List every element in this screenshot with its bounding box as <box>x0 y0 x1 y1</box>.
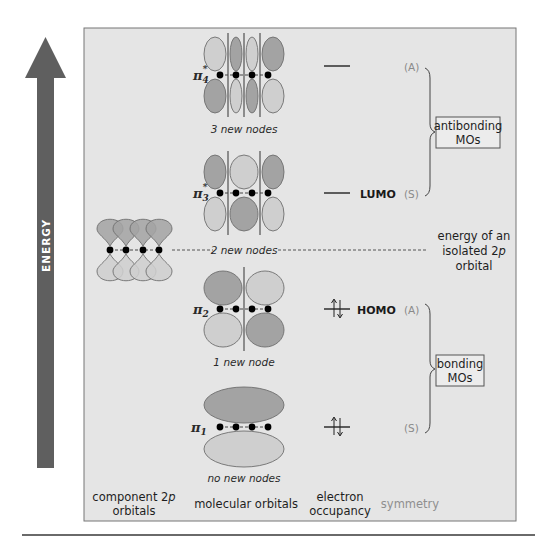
component-atom-2 <box>123 247 130 254</box>
mo-label-pi3: π3* <box>192 182 209 203</box>
mo-label-pi4: π4* <box>192 64 209 85</box>
svg-text:orbital: orbital <box>455 259 492 273</box>
pi4-bottom-lobe-2 <box>230 79 242 113</box>
pi2-bottom-lobe-1 <box>204 313 242 347</box>
pi4-atom-2 <box>233 72 240 79</box>
pi4-top-lobe-4 <box>262 37 284 71</box>
pi4-atom-1 <box>217 72 224 79</box>
svg-text:orbitals: orbitals <box>112 504 155 518</box>
bonding-mos-box: bonding MOs <box>436 355 484 386</box>
svg-text:π4*: π4* <box>192 64 209 85</box>
pi4-bottom-lobe-3 <box>246 79 258 113</box>
svg-text:π3*: π3* <box>192 182 209 203</box>
column-electron-occupancy: electron occupancy <box>309 490 371 518</box>
column-molecular-orbitals: molecular orbitals <box>194 497 298 511</box>
component-atom-3 <box>140 247 147 254</box>
column-symmetry: symmetry <box>381 497 440 511</box>
pi4-atom-4 <box>265 72 272 79</box>
svg-text:bonding: bonding <box>437 357 484 371</box>
energy-axis-label: ENERGY <box>40 219 52 272</box>
symmetry-pi1: (S) <box>404 422 419 434</box>
svg-text:MOs: MOs <box>448 371 473 385</box>
svg-text:component 2p: component 2p <box>92 490 175 504</box>
pi1-atom-2 <box>233 424 240 431</box>
component-atom-1 <box>107 247 114 254</box>
svg-text:isolated 2p: isolated 2p <box>442 244 506 258</box>
pi2-atom-1 <box>217 306 224 313</box>
pi3-bottom-lobe-2 <box>230 197 258 231</box>
symmetry-pi4: (A) <box>404 61 419 73</box>
pi2-atom-3 <box>249 306 256 313</box>
pi3-top-lobe-3 <box>262 155 284 189</box>
pi3-atom-4 <box>265 190 272 197</box>
energy-arrow: ENERGY <box>25 37 66 468</box>
pi2-atom-4 <box>265 306 272 313</box>
pi1-atom-4 <box>265 424 272 431</box>
pi4-atom-3 <box>249 72 256 79</box>
pi3-bottom-lobe-3 <box>262 197 284 231</box>
pi3-top-lobe-2 <box>230 155 258 189</box>
lumo-tag: LUMO <box>360 188 396 201</box>
svg-text:occupancy: occupancy <box>309 504 371 518</box>
pi2-bottom-lobe-2 <box>246 313 284 347</box>
symmetry-pi3: (S) <box>404 188 419 200</box>
energy-arrow-head <box>25 37 66 78</box>
symmetry-pi2: (A) <box>404 304 419 316</box>
antibonding-mos-box: antibonding MOs <box>434 117 503 148</box>
homo-tag: HOMO <box>357 304 396 317</box>
pi4-top-lobe-2 <box>230 37 242 71</box>
pi3-atom-2 <box>233 190 240 197</box>
pi4-top-lobe-3 <box>246 37 258 71</box>
svg-text:antibonding: antibonding <box>434 119 503 133</box>
nodes-label-pi1: no new nodes <box>207 472 281 484</box>
svg-text:MOs: MOs <box>456 133 481 147</box>
pi1-atom-3 <box>249 424 256 431</box>
pi2-atom-2 <box>233 306 240 313</box>
nodes-label-pi2: 1 new node <box>213 356 274 368</box>
svg-text:electron: electron <box>317 490 364 504</box>
pi1-top-lobe-1 <box>204 387 284 423</box>
butadiene-mo-diagram: ENERGY 3 new nodes 2 new nodes 1 new nod… <box>0 0 535 537</box>
pi2-top-lobe-1 <box>204 271 242 305</box>
pi1-atom-1 <box>217 424 224 431</box>
svg-text:energy of an: energy of an <box>438 229 511 243</box>
pi3-atom-3 <box>249 190 256 197</box>
pi2-top-lobe-2 <box>246 271 284 305</box>
pi1-bottom-lobe-1 <box>204 431 284 467</box>
pi4-bottom-lobe-4 <box>262 79 284 113</box>
component-atom-4 <box>156 247 163 254</box>
nodes-label-pi4: 3 new nodes <box>211 123 278 135</box>
pi3-atom-1 <box>217 190 224 197</box>
nodes-label-pi3: 2 new nodes <box>211 244 278 256</box>
